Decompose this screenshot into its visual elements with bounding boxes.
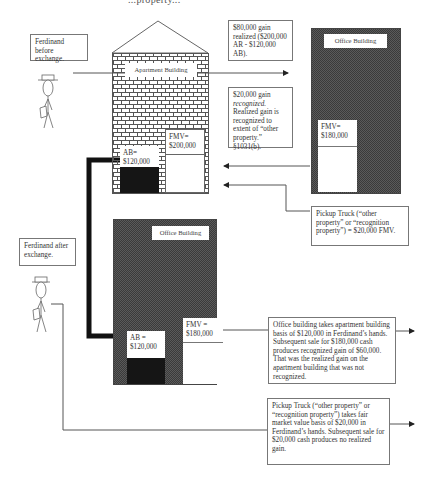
apartment-fmv-box: FMV= $200,000 xyxy=(165,129,205,193)
apartment-building-label: Apartment Building xyxy=(125,63,197,77)
apartment-fmv-value: $200,000 xyxy=(169,142,201,151)
realized-gain-note: $80,000 gain realized ($200,000 AR - $12… xyxy=(228,20,293,61)
apartment-fmv-label: FMV= xyxy=(169,133,201,142)
office-ab-after-label: AB = xyxy=(130,334,162,343)
office-building-after-label: Office Building xyxy=(152,226,209,240)
office-ab-after-box: AB = $120,000 xyxy=(127,331,165,358)
recognized-emphasis-text: recognized. xyxy=(233,100,266,108)
apartment-basis-fill xyxy=(120,167,159,193)
ferdinand-after-figure xyxy=(32,277,50,332)
recognized-amount-text: $20,000 gain xyxy=(233,91,271,99)
ferdinand-before-figure xyxy=(38,75,58,128)
pickup-truck-after-note: Pickup Truck (“other property” or “recog… xyxy=(267,398,390,465)
office-fmv-after-value: $180,000 xyxy=(186,330,220,339)
office-building-before-label: Office Building xyxy=(324,34,387,48)
ferdinand-before-text: Ferdinand before exchange. xyxy=(35,38,64,63)
office-ab-after-value: $120,000 xyxy=(130,343,162,352)
recognized-rest-text: Realized gain is recognized to extent of… xyxy=(233,108,279,150)
pickup-truck-before-note: Pickup Truck (“other property” or “recog… xyxy=(311,206,409,246)
office-fmv-before-label: FMV= xyxy=(321,123,354,132)
office-fmv-after-label: FMV = xyxy=(186,321,220,330)
apartment-ab-value: $120,000 xyxy=(123,158,156,167)
apartment-ab-label: AB= xyxy=(123,149,156,158)
office-fmv-before-box: FMV= $180,000 xyxy=(318,120,357,192)
office-building-after-text: Office building takes apartment building… xyxy=(273,321,390,381)
office-fmv-before-value: $180,000 xyxy=(321,132,354,141)
office-building-after-note: Office building takes apartment building… xyxy=(268,317,396,384)
ferdinand-before-label: Ferdinand before exchange. xyxy=(30,34,88,61)
pickup-truck-before-text: Pickup Truck (“other property” or “recog… xyxy=(316,210,395,235)
roof-shape xyxy=(112,21,208,53)
office-fmv-after-box: FMV = $180,000 xyxy=(183,318,223,384)
ferdinand-after-text: Ferdinand after exchange. xyxy=(24,242,68,259)
recognized-gain-note: $20,000 gain recognized. Realized gain i… xyxy=(228,87,293,148)
realized-gain-text: $80,000 gain realized ($200,000 AR - $12… xyxy=(233,24,287,58)
office-basis-fill xyxy=(127,358,165,384)
pickup-truck-after-text: Pickup Truck (“other property” or “recog… xyxy=(272,402,384,453)
ferdinand-after-label: Ferdinand after exchange. xyxy=(19,238,76,266)
